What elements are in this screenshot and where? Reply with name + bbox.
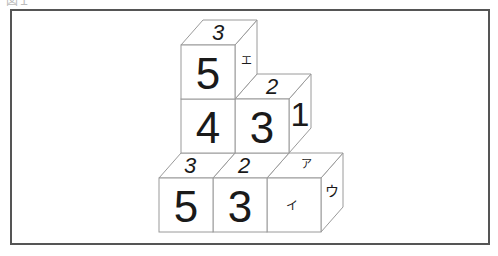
front-number: 3 <box>250 103 274 152</box>
label-a: ア <box>301 158 312 171</box>
top-number: 2 <box>265 74 278 99</box>
top-number: 2 <box>237 153 250 178</box>
label-u: ウ <box>325 183 339 199</box>
front-number: 5 <box>196 49 220 98</box>
right-number: 1 <box>291 95 310 133</box>
cube-stack-diagram: ア イ ウ 2 3 3 5 2 3 1 4 3 5 エ <box>0 0 498 256</box>
front-number: 3 <box>228 182 252 231</box>
label-e: エ <box>241 54 252 67</box>
top-number: 3 <box>212 20 225 45</box>
label-i: イ <box>286 199 298 213</box>
top-cube: 3 5 エ <box>181 20 257 99</box>
front-number: 5 <box>174 182 198 231</box>
front-number: 4 <box>196 103 220 152</box>
middle-left-cube: 4 <box>181 99 235 153</box>
top-number: 3 <box>184 153 197 178</box>
